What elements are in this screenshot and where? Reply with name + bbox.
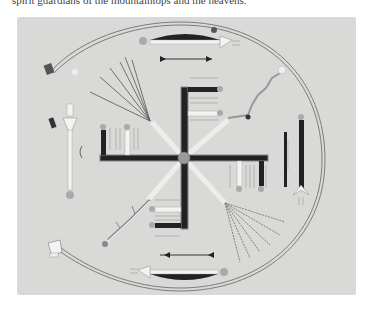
rainbow-feet xyxy=(48,240,62,257)
center-disc xyxy=(178,152,190,164)
bottom-arrow xyxy=(160,252,214,258)
right-figure xyxy=(284,114,309,205)
sandpainting-figure xyxy=(17,17,356,295)
page-caption-text: spirit guardians of the mountaintops and… xyxy=(12,0,362,7)
left-figure xyxy=(48,104,82,199)
bottom-figure xyxy=(130,252,228,280)
lower-left-plant xyxy=(102,200,150,247)
top-figure xyxy=(139,27,240,62)
upper-right-plant xyxy=(228,66,286,120)
top-arrow xyxy=(160,56,212,62)
sandpainting-illustration xyxy=(17,17,356,295)
central-cross xyxy=(100,87,268,229)
lower-right-plant xyxy=(225,203,285,262)
rainbow-head xyxy=(44,63,78,75)
upper-left-plant xyxy=(90,57,150,121)
